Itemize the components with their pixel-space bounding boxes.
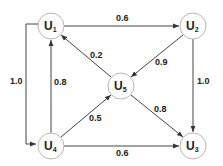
node-u5: U5 — [108, 73, 134, 99]
edge-u5-u3 — [131, 95, 183, 137]
edge-u1-u4 — [26, 24, 38, 144]
edge-label-u1-u2: 0.6 — [116, 13, 129, 23]
edge-label-u2-u5: 0.9 — [155, 57, 168, 67]
edge-label-u5-u1: 0.2 — [90, 50, 103, 60]
node-u3: U3 — [180, 133, 206, 159]
node-u1: U1 — [38, 13, 64, 39]
edge-label-u4-u5: 0.5 — [89, 113, 102, 123]
edge-u2-u5 — [131, 35, 183, 77]
graph-canvas: 0.6 0.9 1.0 0.2 0.8 0.8 0.5 0.6 1.0 U1 U… — [0, 0, 223, 166]
edge-label-u2-u3: 1.0 — [197, 76, 210, 86]
edge-label-u5-u3: 0.8 — [154, 104, 167, 114]
edge-u4-u5 — [61, 95, 111, 137]
edge-label-u4-u1: 0.8 — [54, 77, 67, 87]
node-u2: U2 — [180, 13, 206, 39]
edge-u5-u1 — [61, 35, 111, 77]
node-u4: U4 — [38, 133, 64, 159]
edge-label-u4-u3: 0.6 — [116, 148, 129, 158]
edge-label-u1-u4: 1.0 — [10, 76, 23, 86]
